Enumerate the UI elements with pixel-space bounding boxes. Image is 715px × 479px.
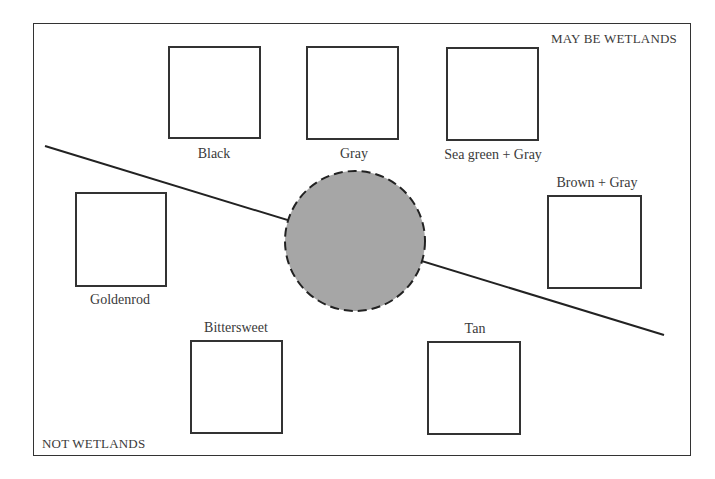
- swatch-label-sea-green-gray: Sea green + Gray: [444, 147, 542, 163]
- region-label-may-be-wetlands: MAY BE WETLANDS: [551, 31, 677, 47]
- swatch-box-sea-green-gray: [446, 47, 539, 141]
- swatch-box-gray: [306, 46, 399, 140]
- swatch-label-tan: Tan: [465, 321, 486, 337]
- swatch-label-black: Black: [198, 146, 231, 162]
- swatch-box-goldenrod: [75, 192, 167, 287]
- swatch-label-brown-gray: Brown + Gray: [557, 175, 638, 191]
- swatch-label-goldenrod: Goldenrod: [90, 292, 150, 308]
- swatch-box-black: [168, 46, 261, 139]
- swatch-box-bittersweet: [190, 340, 283, 434]
- center-circle: [285, 171, 425, 311]
- region-label-not-wetlands: NOT WETLANDS: [42, 436, 145, 452]
- swatch-box-brown-gray: [547, 195, 642, 289]
- swatch-label-gray: Gray: [340, 146, 368, 162]
- swatch-label-bittersweet: Bittersweet: [204, 320, 268, 336]
- swatch-box-tan: [427, 341, 521, 435]
